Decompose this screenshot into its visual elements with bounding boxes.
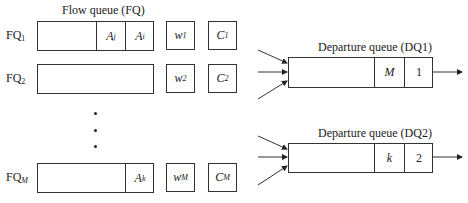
arrows	[0, 0, 468, 203]
dq1-input-arrow	[258, 50, 287, 63]
dq2-input-arrow	[258, 166, 287, 185]
dq2-input-arrow	[258, 136, 287, 149]
dq1-input-arrow	[258, 81, 287, 99]
